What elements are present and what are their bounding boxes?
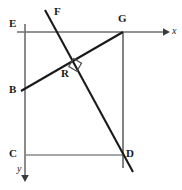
geometry-canvas	[0, 0, 182, 190]
vertex-label-d: D	[126, 148, 134, 159]
vertex-label-f: F	[54, 6, 61, 17]
y-axis-arrowhead	[21, 175, 29, 182]
vertex-label-c: C	[9, 148, 17, 159]
vertex-label-b: B	[9, 84, 16, 95]
x-axis-arrowhead	[163, 28, 170, 36]
vertex-label-e: E	[9, 18, 16, 29]
x-axis-label: x	[172, 26, 176, 36]
y-axis-label: y	[17, 164, 21, 174]
geometry-figure: E F G B R C D x y	[0, 0, 182, 190]
vertex-label-r: R	[61, 68, 69, 79]
vertex-label-g: G	[118, 13, 127, 24]
